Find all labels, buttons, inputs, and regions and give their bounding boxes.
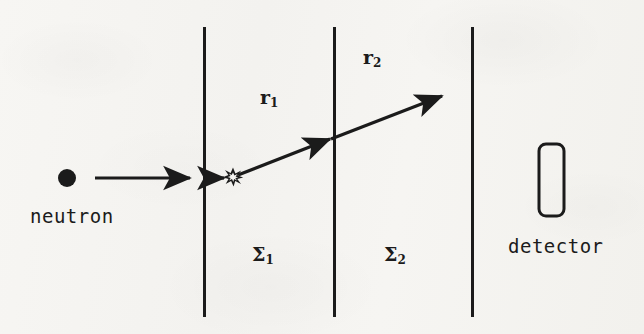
r2-subscript: 2 [373, 56, 381, 70]
detector-label: detector [508, 235, 604, 257]
cross-section-sigma2-label: Σ2 [384, 243, 406, 267]
sigma1-base: Σ [252, 243, 265, 265]
r1-subscript: 1 [270, 96, 278, 110]
path-length-r1-label: r1 [260, 86, 278, 110]
r2-base: r [363, 46, 373, 68]
sigma1-subscript: 1 [265, 253, 273, 267]
scattered-ray-segment-r2 [331, 96, 442, 139]
neutron-scattering-diagram: neutron detector r1 r2 Σ1 Σ2 [0, 0, 644, 334]
detector-box [539, 144, 564, 216]
diagram-canvas [0, 0, 644, 334]
sigma2-subscript: 2 [397, 253, 405, 267]
neutron-label: neutron [30, 205, 114, 227]
collision-burst-icon [223, 168, 243, 187]
neutron-particle-dot [58, 169, 76, 187]
path-length-r2-label: r2 [363, 46, 381, 70]
scattered-ray-segment-r1 [238, 139, 330, 175]
cross-section-sigma1-label: Σ1 [252, 243, 274, 267]
sigma2-base: Σ [384, 243, 397, 265]
r1-base: r [260, 86, 270, 108]
